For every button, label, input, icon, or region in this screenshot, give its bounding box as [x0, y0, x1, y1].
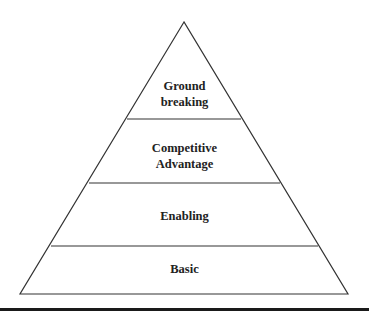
level-enabling: Enabling: [0, 208, 369, 224]
level-competitive-line2: Advantage: [0, 156, 369, 172]
level-groundbreaking-line1: Ground: [0, 78, 369, 94]
level-basic: Basic: [0, 261, 369, 277]
bottom-rule: [0, 308, 369, 311]
level-competitive-line1: Competitive: [0, 140, 369, 156]
level-groundbreaking-line2: breaking: [0, 94, 369, 110]
